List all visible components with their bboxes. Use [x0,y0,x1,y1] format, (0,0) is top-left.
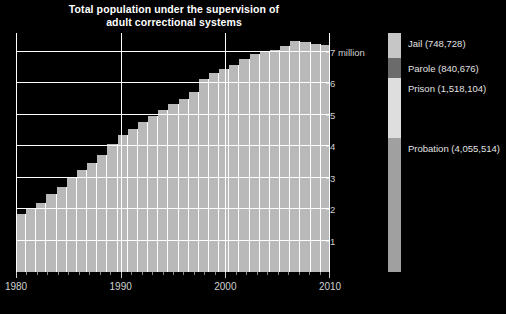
x-axis: 1980199020002010 [16,272,330,280]
stacked-area-series [16,33,330,272]
y-tick-label: 1 [330,235,335,246]
y-tick-label: 7 million [330,46,365,57]
x-tick-minor [79,272,80,275]
y-axis: 1234567 million [330,33,390,272]
year-column [311,44,321,272]
chart-title: Total population under the supervision o… [16,3,332,29]
x-tick-minor [26,272,27,275]
year-column [229,65,239,272]
year-column [189,92,199,272]
chart-legend: Jail (748,728)Parole (840,676)Prison (1,… [388,33,506,272]
x-tick-minor [309,272,310,275]
x-tick-minor [163,272,164,275]
x-tick-minor [152,272,153,275]
chart-title-line-1: Total population under the supervision o… [16,3,332,16]
x-tick-minor [142,272,143,275]
y-tick-label: 4 [330,141,335,152]
gridline-horizontal [16,114,330,115]
year-column [158,110,168,272]
year-column [97,155,107,272]
x-tick-minor [267,272,268,275]
year-column [77,170,87,272]
year-column [290,41,300,272]
x-tick-minor [215,272,216,275]
year-column [148,116,158,272]
x-tick-major [16,272,17,278]
x-tick-minor [236,272,237,275]
x-tick-minor [68,272,69,275]
plot-area [16,33,330,272]
y-tick-label: 5 [330,109,335,120]
year-column [219,69,229,272]
x-tick-major [225,272,226,278]
x-tick-minor [320,272,321,275]
x-tick-minor [257,272,258,275]
chart-title-line-2: adult correctional systems [16,16,332,29]
year-column [209,73,219,272]
gridline-vertical-major [225,33,226,272]
year-column [87,163,97,272]
x-tick-minor [58,272,59,275]
year-column [46,194,56,272]
gridline-vertical-major [16,33,17,272]
x-tick-minor [47,272,48,275]
gridline-horizontal [16,177,330,178]
x-tick-label: 1990 [110,281,132,292]
legend-color-bar [388,33,401,272]
legend-label: Prison (1,518,104) [408,83,486,94]
x-tick-minor [131,272,132,275]
chart-figure: Total population under the supervision o… [0,0,506,314]
x-tick-minor [100,272,101,275]
legend-swatch [388,78,401,138]
x-tick-minor [194,272,195,275]
y-tick-label: 2 [330,204,335,215]
x-tick-major [329,272,330,278]
year-column [57,187,67,272]
x-tick-minor [110,272,111,275]
legend-swatch [388,58,401,78]
x-tick-label: 2010 [319,281,341,292]
x-tick-major [121,272,122,278]
year-column [300,42,310,272]
legend-label: Jail (748,728) [408,38,466,49]
year-column [280,46,290,272]
gridline-horizontal [16,145,330,146]
gridline-horizontal [16,82,330,83]
x-tick-minor [89,272,90,275]
legend-label: Parole (840,676) [408,63,479,74]
year-column [67,177,77,272]
year-column [118,135,128,272]
year-column [36,203,46,272]
year-column [179,99,189,272]
x-tick-minor [246,272,247,275]
y-tick-label: 6 [330,78,335,89]
x-tick-minor [173,272,174,275]
x-tick-label: 2000 [214,281,236,292]
gridline-horizontal [16,51,330,52]
gridline-horizontal [16,240,330,241]
x-tick-label: 1980 [5,281,27,292]
x-tick-minor [37,272,38,275]
year-column [128,129,138,272]
legend-label: Probation (4,055,514) [408,143,500,154]
x-tick-minor [299,272,300,275]
legend-swatch [388,33,401,58]
gridline-horizontal [16,208,330,209]
year-column [16,214,26,272]
year-column [199,79,209,272]
x-tick-minor [278,272,279,275]
y-tick-label: 3 [330,172,335,183]
x-tick-minor [288,272,289,275]
year-column [168,104,178,272]
x-tick-minor [204,272,205,275]
legend-swatch [388,138,401,272]
gridline-vertical-major [121,33,122,272]
x-tick-minor [183,272,184,275]
